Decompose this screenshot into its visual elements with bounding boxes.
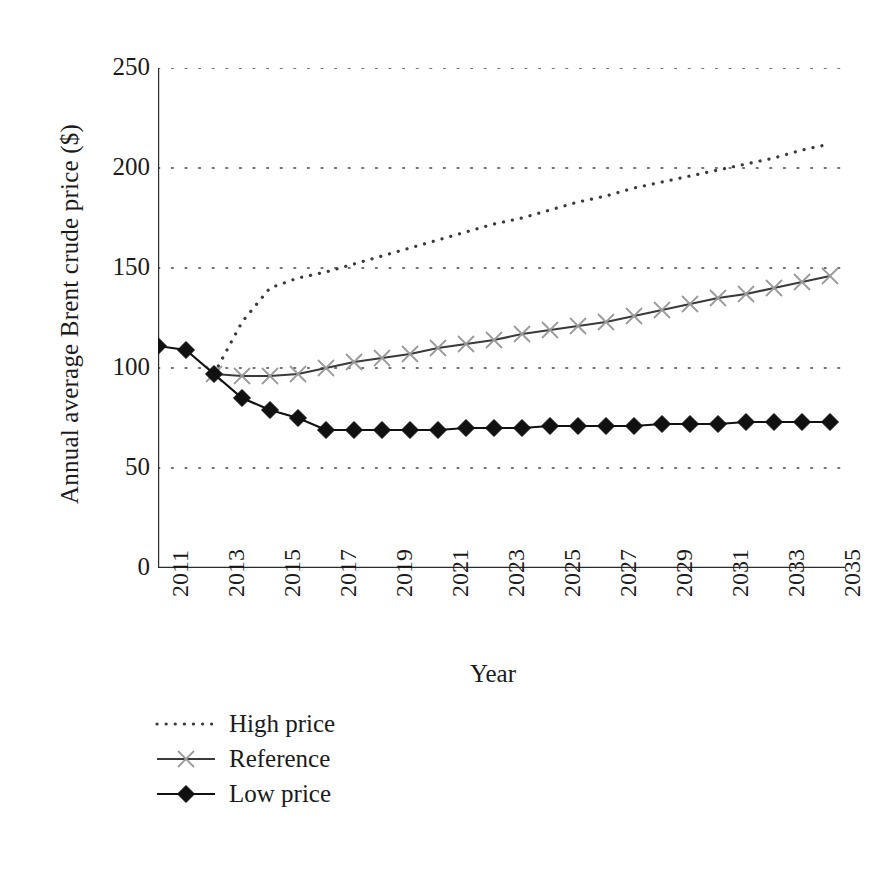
series-line-0	[214, 144, 830, 374]
marker-x	[682, 296, 698, 312]
plot-svg	[158, 68, 845, 568]
x-tick-label: 2013	[223, 549, 250, 597]
marker-diamond	[738, 414, 755, 431]
marker-x	[766, 280, 782, 296]
marker-diamond	[766, 414, 783, 431]
legend-label: Low price	[229, 780, 331, 808]
x-tick-label: 2021	[447, 549, 474, 597]
marker-diamond	[346, 422, 363, 439]
x-tick-label: 2031	[727, 549, 754, 597]
marker-diamond	[402, 422, 419, 439]
marker-diamond	[262, 402, 279, 419]
marker-diamond	[822, 414, 839, 431]
y-tick-label: 50	[70, 454, 150, 479]
x-tick-label: 2019	[391, 549, 418, 597]
marker-diamond	[710, 416, 727, 433]
marker-diamond	[570, 418, 587, 435]
x-axis-title: Year	[0, 660, 891, 688]
series-line-2	[158, 346, 830, 430]
marker-diamond	[430, 422, 447, 439]
plot-area	[158, 68, 845, 568]
marker-x	[822, 268, 838, 284]
legend-item-0[interactable]: High price	[155, 706, 555, 741]
x-tick-label: 2011	[167, 550, 194, 597]
marker-diamond	[682, 416, 699, 433]
marker-diamond	[486, 420, 503, 437]
legend-marker-icon	[155, 713, 217, 735]
marker-x	[626, 308, 642, 324]
marker-diamond	[626, 418, 643, 435]
marker-diamond	[158, 338, 167, 355]
marker-diamond	[458, 420, 475, 437]
x-tick-label: 2033	[783, 549, 810, 597]
x-tick-label: 2015	[279, 549, 306, 597]
x-tick-label: 2035	[839, 549, 866, 597]
marker-diamond	[318, 422, 335, 439]
marker-x	[654, 302, 670, 318]
legend-label: High price	[229, 710, 335, 738]
x-tick-label: 2023	[503, 549, 530, 597]
x-tick-label: 2029	[671, 549, 698, 597]
legend-marker-icon	[155, 783, 217, 805]
y-axis-tick-labels: 050100150200250	[58, 68, 150, 568]
x-tick-label: 2027	[615, 549, 642, 597]
legend-item-1[interactable]: Reference	[155, 741, 555, 776]
chart-legend: High priceReferenceLow price	[155, 706, 555, 811]
marker-diamond	[654, 416, 671, 433]
y-tick-label: 0	[70, 554, 150, 579]
y-tick-label: 100	[70, 354, 150, 379]
y-tick-label: 200	[70, 154, 150, 179]
marker-diamond	[374, 422, 391, 439]
x-tick-label: 2025	[559, 549, 586, 597]
marker-diamond	[290, 410, 307, 427]
series-line-1	[214, 276, 830, 376]
marker-x	[794, 274, 810, 290]
marker-diamond	[514, 420, 531, 437]
y-tick-label: 150	[70, 254, 150, 279]
legend-label: Reference	[229, 745, 330, 773]
x-axis-title-text: Year	[470, 660, 516, 688]
chart-figure: Annual average Brent crude price ($) 050…	[0, 0, 891, 874]
x-tick-label: 2017	[335, 549, 362, 597]
legend-item-2[interactable]: Low price	[155, 776, 555, 811]
y-tick-label: 250	[70, 54, 150, 79]
marker-diamond	[598, 418, 615, 435]
marker-diamond	[542, 418, 559, 435]
legend-marker-icon	[155, 748, 217, 770]
marker-diamond	[794, 414, 811, 431]
